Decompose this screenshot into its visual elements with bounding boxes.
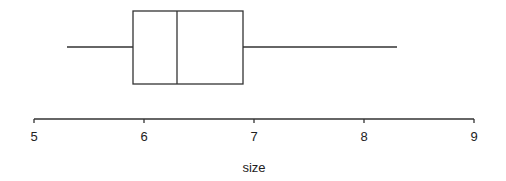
- x-axis-title: size: [242, 160, 265, 175]
- x-tick-label: 5: [30, 129, 37, 144]
- interquartile-box: [133, 11, 243, 84]
- x-tick-label: 8: [360, 129, 367, 144]
- x-tick-label: 7: [250, 129, 257, 144]
- boxplot-chart: 56789 size: [0, 0, 506, 181]
- x-tick-label: 6: [140, 129, 147, 144]
- x-axis: 56789: [30, 119, 477, 144]
- box-plot-series-size: [67, 11, 397, 84]
- x-tick-label: 9: [470, 129, 477, 144]
